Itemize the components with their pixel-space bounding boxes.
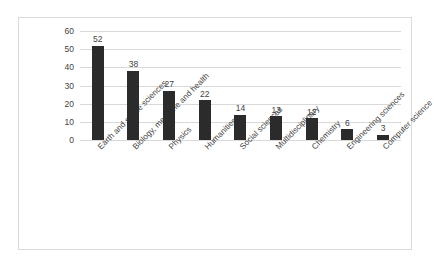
bar[interactable] — [234, 115, 246, 140]
bar-group: 6Engineering sciences — [330, 31, 366, 140]
bar-group: 13Multidisciplinary — [258, 31, 294, 140]
bar[interactable] — [270, 116, 282, 140]
bar-group: 12Chemistry — [294, 31, 330, 140]
bar-value-label: 38 — [129, 60, 138, 69]
bar-group: 52Earth and space sciences — [80, 31, 116, 140]
bar-value-label: 14 — [236, 104, 245, 113]
bar-value-label: 3 — [381, 124, 386, 133]
bar-value-label: 12 — [307, 108, 316, 117]
bar-group: 27Physics — [151, 31, 187, 140]
chart-frame: 0102030405060 52Earth and space sciences… — [18, 17, 412, 250]
y-axis-tick-label: 50 — [65, 45, 74, 54]
y-axis-tick-label: 10 — [65, 118, 74, 127]
bar[interactable] — [199, 100, 211, 140]
y-axis-tick-label: 60 — [65, 27, 74, 36]
x-axis-category-label: Computer science — [381, 98, 434, 151]
bar-group: 14Social sciences — [223, 31, 259, 140]
bar-group: 22Humanities — [187, 31, 223, 140]
bar-value-label: 22 — [200, 90, 209, 99]
bar-value-label: 27 — [164, 80, 173, 89]
bar[interactable] — [163, 91, 175, 140]
bar-value-label: 6 — [345, 119, 350, 128]
y-axis-tick-label: 0 — [69, 136, 74, 145]
plot-area: 0102030405060 52Earth and space sciences… — [80, 31, 401, 140]
y-axis-tick-label: 20 — [65, 99, 74, 108]
bar-value-label: 52 — [93, 35, 102, 44]
bar-series: 52Earth and space sciences38Biology, med… — [80, 31, 401, 140]
bar[interactable] — [306, 118, 318, 140]
y-axis-tick-label: 40 — [65, 63, 74, 72]
bar-value-label: 13 — [271, 106, 280, 115]
bar[interactable] — [92, 46, 104, 140]
bar-group: 38Biology, medicine and health — [116, 31, 152, 140]
bar[interactable] — [127, 71, 139, 140]
bar-group: 3Computer science — [365, 31, 401, 140]
y-axis-tick-label: 30 — [65, 81, 74, 90]
